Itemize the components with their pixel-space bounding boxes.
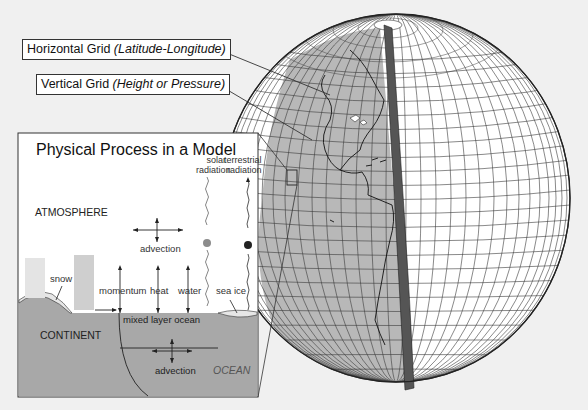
snow-label: snow — [50, 273, 72, 284]
terrestrial-label-line2: radiation — [224, 165, 262, 175]
horizontal-grid-label: Horizontal Grid (Latitude-Longitude) — [22, 39, 231, 60]
globe-illustration — [0, 0, 588, 410]
horizontal-grid-label-main: Horizontal Grid — [27, 42, 114, 56]
terrestrial-radiation-label: terrestrialradiation — [224, 155, 262, 175]
horizontal-grid-label-detail: (Latitude-Longitude) — [114, 42, 226, 56]
mixed-layer-ocean-label: mixed layer ocean — [123, 314, 200, 325]
solar-radiation-dot — [203, 239, 211, 247]
heat-label: heat — [150, 285, 169, 296]
vertical-grid-label: Vertical Grid (Height or Pressure) — [36, 74, 230, 95]
continent-label: CONTINENT — [40, 329, 101, 341]
vertical-grid-label-main: Vertical Grid — [41, 77, 113, 91]
water-label: water — [178, 285, 201, 296]
atmosphere-label: ATMOSPHERE — [35, 206, 108, 218]
vertical-grid-label-detail: (Height or Pressure) — [113, 77, 226, 91]
ocean-label: OCEAN — [213, 364, 250, 376]
solar-label-line1: solar — [202, 155, 226, 165]
momentum-label: momentum — [99, 285, 147, 296]
terrestrial-label-line1: terrestrial — [224, 155, 262, 165]
sea-ice-label: sea ice — [216, 285, 246, 296]
terrestrial-radiation-dot — [244, 241, 252, 249]
air-advection-label: advection — [140, 243, 181, 254]
ocean-advection-label: advection — [155, 365, 196, 376]
